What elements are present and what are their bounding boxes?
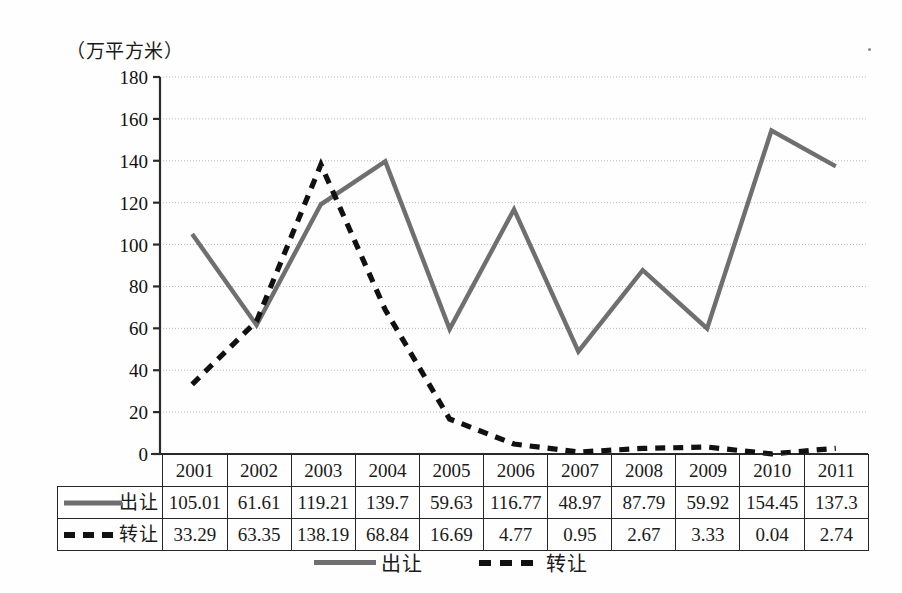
table-year-header: 2008	[612, 455, 676, 487]
table-cell: 87.79	[612, 487, 676, 519]
table-year-header: 2010	[740, 455, 804, 487]
table-cell: 138.19	[291, 519, 355, 551]
table-cell: 48.97	[548, 487, 612, 519]
table-row-label: 出让	[119, 492, 158, 513]
data-table: 2001200220032004200520062007200820092010…	[57, 454, 869, 551]
table-cell: 33.29	[163, 519, 227, 551]
data-series-group	[192, 131, 836, 454]
table-row: 转让33.2963.35138.1968.8416.694.770.952.67…	[58, 519, 869, 551]
table-year-header: 2005	[419, 455, 483, 487]
legend-item: 转让	[479, 548, 588, 577]
table-cell: 105.01	[163, 487, 227, 519]
table-cell: 119.21	[291, 487, 355, 519]
table-year-header: 2006	[484, 455, 548, 487]
y-tick-label: 40	[129, 360, 148, 381]
table-cell: 2.74	[804, 519, 868, 551]
table-year-header: 2004	[355, 455, 419, 487]
table-cell: 16.69	[419, 519, 483, 551]
table-year-header: 2002	[227, 455, 291, 487]
table-year-header: 2001	[163, 455, 227, 487]
table-year-header: 2009	[676, 455, 740, 487]
table-row-label: 转让	[119, 524, 158, 545]
y-tick-label: 100	[120, 235, 149, 256]
table-cell: 0.95	[548, 519, 612, 551]
table-year-header: 2007	[548, 455, 612, 487]
y-tick-label: 160	[120, 109, 149, 130]
table-cell: 0.04	[740, 519, 804, 551]
table-year-header: 2011	[804, 455, 868, 487]
gridlines-group	[160, 77, 868, 454]
table-cell: 4.77	[484, 519, 548, 551]
legend-item: 出让	[314, 548, 423, 577]
y-tick-label: 80	[129, 276, 148, 297]
table-cell: 68.84	[355, 519, 419, 551]
table-row-header: 转让	[58, 519, 163, 551]
y-tick-label: 120	[120, 193, 149, 214]
table-row-header: 出让	[58, 487, 163, 519]
legend-label: 转让	[546, 548, 588, 577]
table-cell: 2.67	[612, 519, 676, 551]
table-header-row: 2001200220032004200520062007200820092010…	[58, 455, 869, 487]
y-tick-label: 60	[129, 318, 148, 339]
table-cell: 3.33	[676, 519, 740, 551]
solid-line-icon	[314, 560, 376, 565]
chart-figure: （万平方米） 020406080100120140160180 20012002…	[0, 0, 902, 593]
chart-legend: 出让转让	[0, 548, 902, 577]
table-body: 出让105.0161.61119.21139.759.63116.7748.97…	[58, 487, 869, 551]
table-cell: 116.77	[484, 487, 548, 519]
table-cell: 61.61	[227, 487, 291, 519]
y-tick-label: 140	[120, 151, 149, 172]
table-corner-cell	[58, 455, 163, 487]
y-tick-label: 20	[129, 402, 148, 423]
table-cell: 63.35	[227, 519, 291, 551]
dashed-line-icon	[64, 532, 122, 538]
artifact-speck	[868, 48, 871, 51]
solid-line-icon	[64, 500, 122, 505]
y-axis-tick-labels: 020406080100120140160180	[120, 67, 149, 465]
table-cell: 154.45	[740, 487, 804, 519]
legend-label: 出让	[381, 548, 423, 577]
dashed-line-icon	[479, 560, 541, 566]
axes-group	[151, 77, 868, 454]
table-cell: 59.92	[676, 487, 740, 519]
table-header: 2001200220032004200520062007200820092010…	[58, 455, 869, 487]
table-year-header: 2003	[291, 455, 355, 487]
table-cell: 59.63	[419, 487, 483, 519]
table-row: 出让105.0161.61119.21139.759.63116.7748.97…	[58, 487, 869, 519]
table-cell: 137.3	[804, 487, 868, 519]
y-tick-label: 180	[120, 67, 149, 88]
series-line-solid	[192, 131, 836, 352]
table-cell: 139.7	[355, 487, 419, 519]
